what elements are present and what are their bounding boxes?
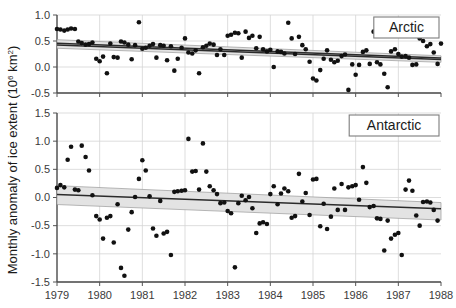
data-point	[151, 226, 156, 231]
data-point	[332, 186, 337, 191]
data-point	[158, 199, 163, 204]
data-point	[243, 29, 248, 34]
y-axis-title-text: Monthly anomaly of ice extent (106 km2)	[5, 46, 20, 275]
data-point	[183, 36, 188, 41]
data-point	[421, 39, 426, 44]
data-point	[254, 46, 259, 51]
data-point	[179, 45, 184, 50]
data-point	[318, 224, 323, 229]
data-point	[83, 155, 88, 160]
data-point	[303, 47, 308, 52]
data-point	[97, 217, 102, 222]
data-point	[58, 183, 63, 188]
data-point	[140, 158, 145, 163]
data-point	[126, 227, 131, 232]
data-point	[73, 27, 78, 32]
data-point	[207, 184, 212, 189]
data-point	[346, 88, 351, 93]
data-point	[175, 56, 180, 61]
y-tick-label: 1.5	[35, 107, 50, 119]
data-point	[325, 227, 330, 232]
data-point	[297, 35, 302, 40]
data-point	[101, 236, 106, 241]
data-point	[435, 62, 440, 67]
x-tick-label: 1979	[45, 289, 69, 301]
data-point	[169, 44, 174, 49]
data-point	[385, 218, 390, 223]
data-point	[87, 168, 92, 173]
data-point	[300, 199, 305, 204]
data-point	[403, 187, 408, 192]
data-point	[318, 68, 323, 73]
data-point	[421, 200, 426, 205]
data-point	[286, 21, 291, 26]
y-tick-label: 0.0	[35, 191, 50, 203]
data-point	[197, 71, 202, 76]
data-point	[201, 141, 206, 146]
data-point	[353, 73, 358, 78]
x-tick-label: 1986	[343, 289, 367, 301]
data-point	[286, 189, 291, 194]
data-point	[147, 194, 152, 199]
data-point	[300, 43, 305, 48]
data-point	[233, 265, 238, 270]
data-point	[389, 236, 394, 241]
data-point	[154, 234, 159, 239]
data-point	[239, 55, 244, 60]
data-point	[143, 168, 148, 173]
data-point	[215, 53, 220, 58]
data-point	[122, 274, 127, 279]
y-tick-label: -1.5	[31, 276, 50, 288]
data-point	[151, 42, 156, 47]
data-point	[357, 197, 362, 202]
data-point	[382, 248, 387, 253]
data-point	[335, 208, 340, 213]
data-point	[361, 165, 366, 170]
data-point	[90, 193, 95, 198]
panel-arctic: -0.50.00.51.0Arctic	[31, 9, 443, 99]
data-point	[282, 186, 287, 191]
data-point	[137, 177, 142, 182]
data-point	[254, 231, 259, 236]
data-point	[396, 231, 401, 236]
data-point	[193, 169, 198, 174]
data-point	[236, 201, 241, 206]
data-point	[414, 213, 419, 218]
data-point	[222, 200, 227, 205]
data-point	[76, 188, 81, 193]
data-point	[321, 56, 326, 61]
data-point	[279, 191, 284, 196]
data-point	[307, 213, 312, 218]
data-point	[115, 55, 120, 60]
data-point	[407, 178, 412, 183]
data-point	[197, 187, 202, 192]
data-point	[303, 191, 308, 196]
data-point	[268, 192, 273, 197]
x-tick-label: 1988	[429, 289, 453, 301]
data-point	[186, 50, 191, 55]
data-point	[431, 50, 436, 55]
data-point	[321, 201, 326, 206]
data-point	[367, 62, 372, 67]
data-point	[211, 42, 216, 47]
x-tick-label: 1985	[301, 289, 325, 301]
data-point	[161, 43, 166, 48]
data-point	[378, 62, 383, 67]
y-tick-label: -1.0	[31, 248, 50, 260]
data-point	[275, 202, 280, 207]
data-point	[101, 54, 106, 59]
y-tick-label: 0.5	[35, 35, 50, 47]
data-point	[371, 204, 376, 209]
data-point	[129, 57, 134, 62]
data-point	[439, 41, 444, 46]
y-axis-title: Monthly anomaly of ice extent (106 km2)	[5, 46, 20, 275]
data-point	[154, 55, 159, 60]
data-point	[289, 36, 294, 41]
y-tick-label: 1.0	[35, 135, 50, 147]
data-point	[211, 188, 216, 193]
data-point	[190, 51, 195, 56]
data-point	[410, 188, 415, 193]
data-point	[265, 222, 270, 227]
data-point	[243, 198, 248, 203]
data-point	[126, 42, 131, 47]
